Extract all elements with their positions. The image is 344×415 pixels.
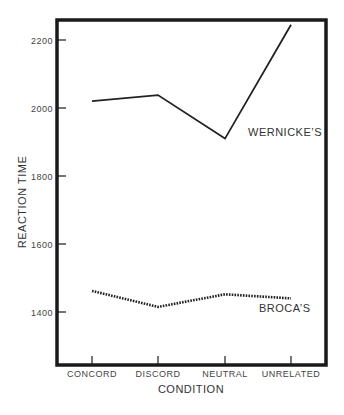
y-axis-title: REACTION TIME xyxy=(16,156,28,248)
data-series: WERNICKE’SBROCA’S xyxy=(92,25,322,314)
y-tick-label: 1600 xyxy=(31,240,53,250)
x-tick-label: DISCORD xyxy=(135,369,180,379)
wernickes-label: WERNICKE’S xyxy=(248,126,322,138)
x-tick-label: UNRELATED xyxy=(262,369,320,379)
line-chart: 14001600180020002200 CONCORDDISCORDNEUTR… xyxy=(0,0,344,415)
y-tick-label: 1400 xyxy=(31,308,53,318)
y-tick-label: 2200 xyxy=(31,36,53,46)
y-tick-label: 2000 xyxy=(31,104,53,114)
x-tick-label: CONCORD xyxy=(67,369,117,379)
x-axis: CONCORDDISCORDNEUTRALUNRELATED xyxy=(67,356,320,379)
brocas-label: BROCA’S xyxy=(259,302,311,314)
y-tick-label: 1800 xyxy=(31,172,53,182)
x-axis-title: CONDITION xyxy=(158,383,224,395)
wernickes-line xyxy=(92,25,291,139)
y-axis: 14001600180020002200 xyxy=(31,36,66,318)
x-tick-label: NEUTRAL xyxy=(202,369,248,379)
